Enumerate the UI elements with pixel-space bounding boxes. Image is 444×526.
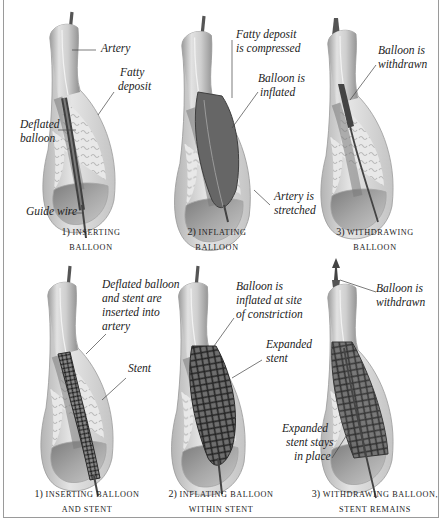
label-balloon-is-withdrawn-1: Balloon is: [378, 44, 425, 57]
label-stent: Stent: [128, 362, 151, 375]
label-balloon-is-withdrawn-2: Balloon is: [376, 282, 423, 295]
panel-inflating-balloon: Fatty deposit is compressed Balloon is i…: [152, 0, 300, 260]
label-artery: Artery: [101, 42, 130, 55]
label-in-place: in place: [294, 450, 331, 463]
label-guide-wire: Guide wire: [26, 205, 77, 218]
label-withdrawn-1: withdrawn: [378, 58, 427, 71]
label-is-compressed: is compressed: [236, 42, 300, 55]
withdrawn-arrow-icon: [332, 258, 340, 280]
caption-step-1: 1) Inserting Balloon: [26, 224, 156, 255]
panel-inserting-balloon-and-stent: Deflated balloon and stent are inserted …: [6, 258, 154, 518]
label-inflated: inflated: [260, 86, 295, 99]
caption-step-3: 3) Withdrawing Balloon: [320, 224, 430, 255]
label-withdrawn-2: withdrawn: [376, 296, 425, 309]
caption-step-3-stent: 3) Withdrawing balloon, stent remains: [300, 486, 444, 517]
caption-step-2: 2) Inflating Balloon: [152, 224, 282, 255]
label-stent-2: stent: [266, 352, 288, 365]
label-fatty: Fatty: [120, 66, 144, 79]
panel-withdrawing-balloon: Balloon is withdrawn 3) Withdrawing Ball…: [292, 0, 440, 260]
label-deflated: Deflated: [20, 118, 60, 131]
label-deposit: deposit: [118, 80, 151, 93]
caption-step-2-stent: 2) Inflating balloon within stent: [146, 486, 296, 517]
artery-illustration-withdrawing-balloon: [292, 0, 440, 260]
caption-step-1-stent: 1) Inserting balloon and stent: [12, 486, 162, 517]
panel-inflating-balloon-within-stent: Balloon is inflated at site of constrict…: [152, 258, 300, 518]
label-artery-2: artery: [102, 320, 130, 333]
label-balloon-is-2: Balloon is: [236, 280, 283, 293]
label-balloon: balloon: [20, 132, 55, 145]
label-expanded-2: Expanded: [282, 422, 328, 435]
panel-withdrawing-balloon-stent-remains: Balloon is withdrawn Expanded stent stay…: [292, 258, 440, 518]
label-fatty-deposit: Fatty deposit: [236, 28, 296, 41]
label-stent-stays: stent stays: [286, 436, 334, 449]
panel-inserting-balloon: Artery Fatty deposit Deflated balloon Gu…: [6, 0, 154, 260]
